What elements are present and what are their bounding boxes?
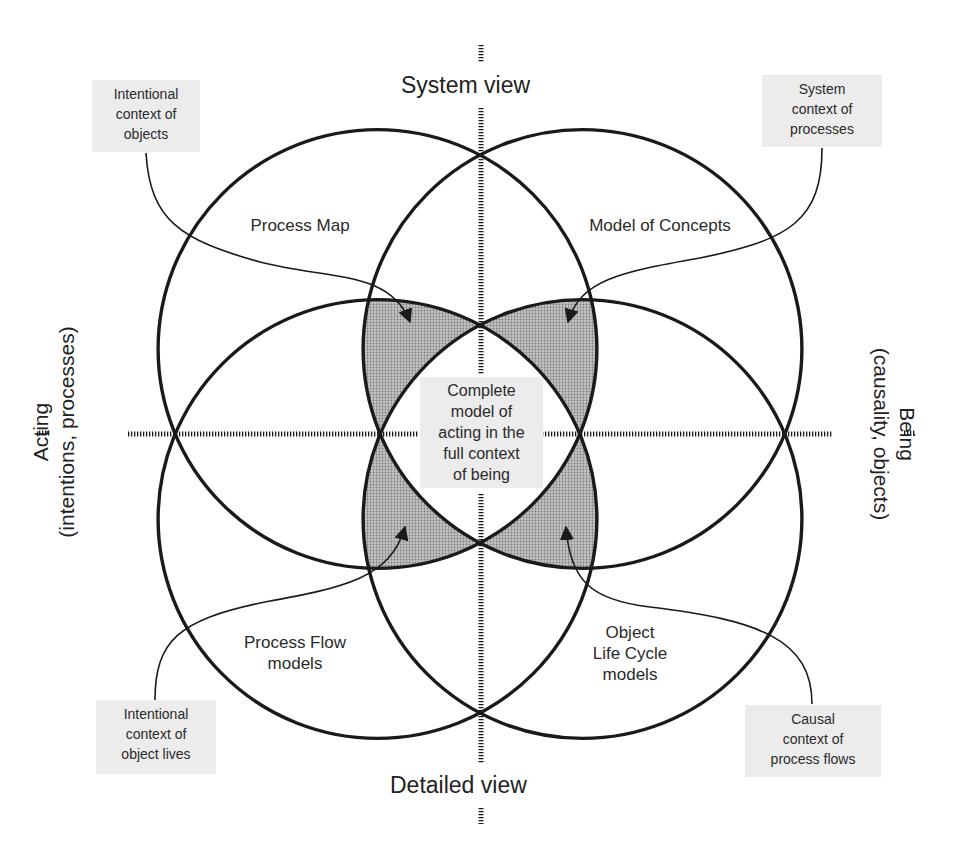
axis-label-acting: Acting (intentions, processes): [28, 322, 80, 542]
axis-label-being: Being (causality, objects): [868, 324, 920, 544]
being-title: Being: [894, 324, 920, 544]
center-complete-model: Complete model of acting in the full con…: [420, 377, 543, 488]
axis-label-system-view: System view: [401, 72, 530, 99]
region-process-flow-models: Process Flow models: [220, 632, 370, 674]
region-model-of-concepts: Model of Concepts: [565, 215, 755, 236]
region-process-map: Process Map: [230, 215, 370, 236]
acting-title: Acting: [28, 322, 54, 542]
acting-subtitle: (intentions, processes): [54, 322, 80, 542]
axis-label-detailed-view: Detailed view: [390, 772, 527, 799]
callout-causal-context-of-process-flows: Causal context of process flows: [745, 705, 881, 777]
callout-intentional-context-of-objects: Intentional context of objects: [92, 80, 200, 152]
being-subtitle: (causality, objects): [868, 324, 894, 544]
callout-system-context-of-processes: System context of processes: [762, 75, 882, 147]
callout-intentional-context-of-object-lives: Intentional context of object lives: [96, 700, 216, 774]
region-object-life-cycle-models: Object Life Cycle models: [570, 622, 690, 685]
